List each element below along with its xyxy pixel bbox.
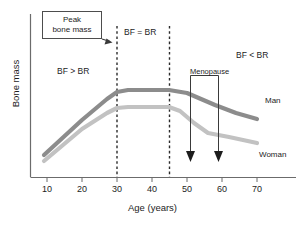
x-tick-label-10: 10: [35, 184, 59, 194]
x-tick-label-40: 40: [140, 184, 164, 194]
peak-bone-mass-line1: Peak: [63, 15, 81, 25]
x-tick-label-30: 30: [105, 184, 129, 194]
peak-bone-mass-callout: Peak bone mass: [42, 11, 102, 39]
menopause-bracket: [191, 76, 219, 153]
peak-bone-mass-pointer: [102, 39, 113, 45]
x-tick-label-70: 70: [245, 184, 269, 194]
annotation-bf-equal-br: BF = BR: [124, 27, 156, 37]
peak-bone-mass-line2: bone mass: [52, 25, 91, 35]
annotation-bf-less-br: BF < BR: [236, 50, 268, 60]
y-axis-title: Bone mass: [10, 49, 21, 119]
x-axis-title: Age (years): [0, 202, 305, 213]
menopause-arrowhead-age-56: [214, 151, 223, 162]
series-line-woman: [44, 107, 257, 161]
x-tick-label-20: 20: [70, 184, 94, 194]
annotation-bf-greater-br: BF > BR: [57, 66, 89, 76]
x-tick-label-60: 60: [210, 184, 234, 194]
series-label-woman: Woman: [259, 150, 286, 159]
bone-mass-age-chart: Peak bone mass BF > BR BF = BR BF < BR M…: [0, 0, 305, 226]
series-label-man: Man: [265, 96, 281, 105]
x-axis-ticks: [47, 178, 257, 183]
series-line-man: [44, 90, 257, 155]
menopause-arrowhead-age-50: [186, 151, 195, 162]
annotation-menopause: Menopause: [190, 67, 229, 76]
x-tick-label-50: 50: [175, 184, 199, 194]
